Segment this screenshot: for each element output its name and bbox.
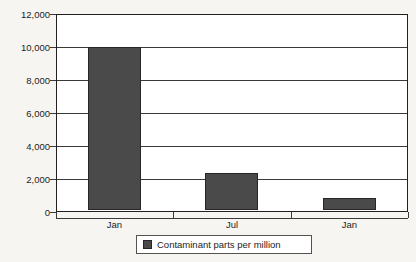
y-axis-tick-label: 2,000 [0, 174, 50, 185]
bar-chart: 12,000 10,000 8,000 6,000 4,000 2,000 0 … [0, 0, 416, 262]
x-axis-tick-label: Jul [173, 219, 291, 230]
y-axis-tick-label: 0 [0, 207, 50, 218]
x-axis-tick-label: Jan [291, 219, 408, 230]
y-axis-tick-label: 12,000 [0, 9, 50, 20]
y-axis-tick-label: 6,000 [0, 108, 50, 119]
legend-swatch-icon [143, 240, 152, 249]
y-axis-tick-label: 4,000 [0, 141, 50, 152]
bar-jul [205, 173, 258, 210]
x-axis-tick-mark [408, 212, 409, 218]
bar-jan-1 [88, 47, 141, 210]
y-axis-tick-label: 8,000 [0, 75, 50, 86]
y-axis-tick-label: 10,000 [0, 42, 50, 53]
legend-item-label: Contaminant parts per million [157, 239, 281, 250]
x-axis-tick-label: Jan [56, 219, 173, 230]
plot-area [56, 14, 408, 212]
legend: Contaminant parts per million [136, 235, 312, 254]
bar-jan-2 [323, 198, 376, 210]
